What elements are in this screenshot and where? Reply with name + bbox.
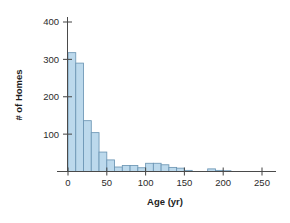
y-tick-label: 200 <box>43 91 59 102</box>
histogram-bar <box>115 167 123 171</box>
histogram-bar <box>153 163 161 171</box>
histogram-bar <box>76 63 84 171</box>
histogram-chart: 100200300400 050100150200250 Age (yr) # … <box>0 0 290 223</box>
y-axis-title: # of Homes <box>13 69 24 120</box>
histogram-bar <box>99 152 107 171</box>
x-tick-label: 50 <box>102 177 113 188</box>
x-axis-title: Age (yr) <box>147 196 183 207</box>
histogram-bar <box>169 167 177 171</box>
x-tick-label: 0 <box>65 177 70 188</box>
x-tick-label: 100 <box>138 177 154 188</box>
histogram-bar <box>138 168 146 172</box>
histogram-bars <box>68 53 231 172</box>
y-tick-label: 400 <box>43 16 59 27</box>
x-tick-label: 250 <box>254 177 270 188</box>
histogram-bar <box>68 53 76 172</box>
x-tick-label: 200 <box>215 177 231 188</box>
histogram-bar <box>107 160 115 172</box>
x-tick-label: 150 <box>176 177 192 188</box>
histogram-bar <box>91 133 99 172</box>
histogram-bar <box>146 163 154 171</box>
y-tick-label: 300 <box>43 54 59 65</box>
histogram-bar <box>122 166 130 172</box>
chart-canvas: 100200300400 050100150200250 Age (yr) # … <box>0 0 290 223</box>
histogram-bar <box>161 165 169 172</box>
y-tick-label: 100 <box>43 129 59 140</box>
histogram-bar <box>130 166 138 172</box>
histogram-bar <box>84 121 92 172</box>
